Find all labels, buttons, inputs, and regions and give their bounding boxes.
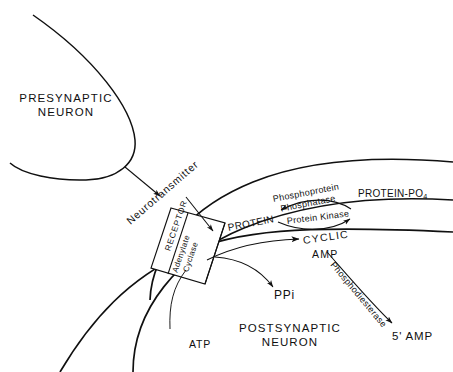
protein-phosphate-subscript: 4 xyxy=(423,192,427,201)
presynaptic-neuron-line1: PRESYNAPTIC xyxy=(12,92,120,106)
postsynaptic-neuron-line2: NEURON xyxy=(228,336,352,350)
diagram-vector-layer xyxy=(0,0,453,372)
five-prime-amp-label: 5' AMP xyxy=(392,330,433,344)
figure-canvas: PRESYNAPTIC NEURON POSTSYNAPTIC NEURON N… xyxy=(0,0,453,372)
protein-phosphate-text: PROTEIN-PO xyxy=(358,188,423,199)
cytoplasm-boundary-curve xyxy=(60,229,453,372)
ppi-label: PPi xyxy=(274,288,295,302)
arrow-to-ppi xyxy=(215,257,273,287)
postsynaptic-neuron-line1: POSTSYNAPTIC xyxy=(228,322,352,336)
atp-supply-line xyxy=(170,270,186,329)
protein-phosphate-label: PROTEIN-PO4 xyxy=(358,188,428,201)
arrow-cyclase-to-cyclic-amp xyxy=(207,239,299,260)
presynaptic-neuron-line2: NEURON xyxy=(12,106,120,120)
presynaptic-neuron-label: PRESYNAPTIC NEURON xyxy=(12,92,120,119)
postsynaptic-neuron-label: POSTSYNAPTIC NEURON xyxy=(228,322,352,349)
atp-label: ATP xyxy=(189,338,211,350)
amp-label: AMP xyxy=(312,248,339,260)
